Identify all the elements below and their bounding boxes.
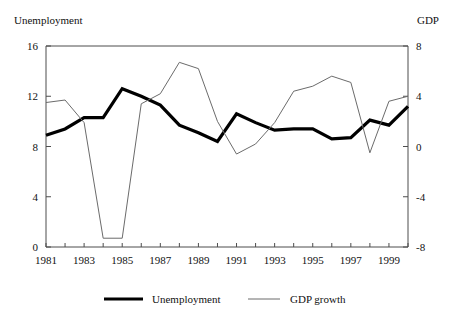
right-tick-label: 0 (416, 141, 422, 153)
left-tick-label: 8 (33, 141, 39, 153)
series-line-gdp-growth (46, 62, 408, 238)
right-axis-tick-labels: -8-4048 (416, 40, 426, 253)
left-tick-label: 12 (27, 90, 38, 102)
chart-legend: UnemploymentGDP growth (104, 293, 346, 305)
left-axis-tick-labels: 0481216 (27, 40, 39, 253)
x-tick-label: 1997 (340, 254, 363, 266)
right-tick-label: 8 (416, 40, 422, 52)
legend-label-gdp-growth: GDP growth (290, 293, 346, 305)
x-tick-label: 1995 (302, 254, 325, 266)
x-tick-label: 1985 (111, 254, 134, 266)
data-series (46, 62, 408, 238)
left-tick-label: 4 (33, 191, 39, 203)
x-axis-tick-labels: 1981198319851987198919911993199519971999 (35, 254, 400, 266)
right-tick-label: 4 (416, 90, 422, 102)
x-tick-label: 1983 (73, 254, 96, 266)
chart-plot: 0481216 -8-4048 198119831985198719891991… (0, 0, 449, 328)
axis-ticks (46, 46, 408, 247)
chart-container: Unemployment GDP 0481216 -8-4048 1981198… (0, 0, 449, 328)
right-tick-label: -4 (416, 191, 426, 203)
left-tick-label: 16 (27, 40, 39, 52)
x-tick-label: 1989 (187, 254, 210, 266)
right-tick-label: -8 (416, 241, 426, 253)
x-tick-label: 1987 (149, 254, 172, 266)
x-tick-label: 1999 (378, 254, 401, 266)
legend-label-unemployment: Unemployment (152, 293, 220, 305)
plot-frame (46, 46, 408, 247)
x-tick-label: 1993 (264, 254, 287, 266)
x-tick-label: 1991 (226, 254, 248, 266)
left-tick-label: 0 (33, 241, 39, 253)
x-tick-label: 1981 (35, 254, 57, 266)
series-line-unemployment (46, 89, 408, 142)
